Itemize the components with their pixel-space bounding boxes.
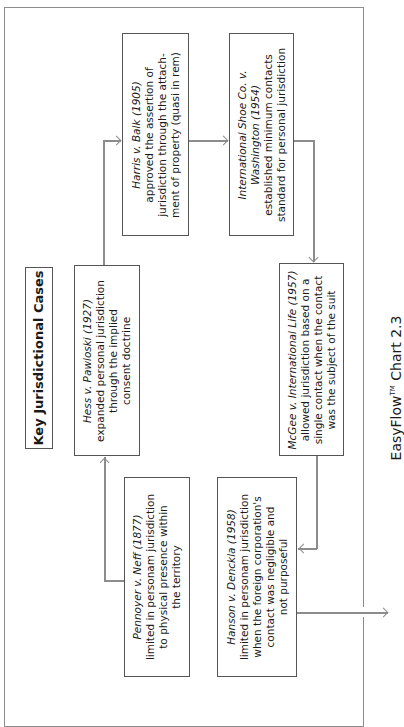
case-text-mcgee: McGee v. International Life (1957) allow… [286,270,338,449]
case-desc-line: single contact when the contact [312,270,325,449]
case-text-intl-shoe: International Shoe Co. v. Washington (19… [236,47,288,221]
case-desc-line: when the foreign corporation's [251,494,264,660]
case-box-pennoyer: Pennoyer v. Neff (1877) limited in perso… [124,477,190,677]
connector-mcgee-hanson [316,456,318,549]
title-box: Key Jurisdictional Cases [25,267,53,449]
chart-caption: EasyFlowTM Chart 2.3 [388,316,404,461]
connector-pennoyer-hess [104,580,124,582]
case-desc-line: not purposeful [277,494,290,660]
case-desc-line: to physical presence within [157,494,170,660]
case-desc-line: through the implied [107,280,120,442]
case-text-pennoyer: Pennoyer v. Neff (1877) limited in perso… [131,494,183,660]
case-box-hess: Hess v. Pawloski (1927) expanded persona… [74,265,140,456]
case-desc-line: limited in personam jurisdiction [144,494,157,660]
connector-pennoyer-hess [104,457,106,581]
case-desc-line: expanded personal jurisdiction [94,280,107,442]
case-name: Hess v. Pawloski (1927) [81,280,94,442]
connector-intlshoe-mcgee [294,140,314,142]
case-desc-line: ment of property (quasi in rem) [169,52,182,218]
case-name: Washington (1954) [249,47,262,221]
case-desc-line: the territory [170,494,183,660]
trademark-symbol: TM [389,385,397,395]
case-desc-line: jurisdiction through the attach- [156,52,169,218]
case-box-intl-shoe: International Shoe Co. v. Washington (19… [229,33,294,236]
connector-hess-harris [103,140,105,265]
case-box-hanson: Hanson v. Denckla (1958) limited in pers… [217,477,297,677]
caption-label: Chart 2.3 [388,316,404,381]
case-name: McGee v. International Life (1957) [286,270,299,449]
case-name: International Shoe Co. v. [236,47,249,221]
case-text-harris: Harris v. Balk (1905) approved the asser… [130,52,182,218]
case-desc-line: consent doctrine [120,280,133,442]
connector-hanson-offpage [297,612,388,614]
connector-intlshoe-mcgee [313,140,315,262]
case-desc-line: standard for personal jurisdiction [275,47,288,221]
case-desc-line: established minimum contacts [262,47,275,221]
arrow-right-icon [379,608,389,618]
case-desc-line: was the subject of the suit [325,270,338,449]
case-desc-line: limited in personam jurisdiction [238,494,251,660]
caption-brand: EasyFlow [388,396,404,461]
case-name: Hanson v. Denckla (1958) [225,494,238,660]
case-box-harris: Harris v. Balk (1905) approved the asser… [122,33,189,236]
diagram-title: Key Jurisdictional Cases [31,270,47,445]
case-name: Harris v. Balk (1905) [130,52,143,218]
case-text-hanson: Hanson v. Denckla (1958) limited in pers… [225,494,290,660]
case-desc-line: approved the assertion of [143,52,156,218]
case-box-mcgee: McGee v. International Life (1957) allow… [279,263,344,456]
case-desc-line: allowed jurisdiction based on a [299,270,312,449]
case-text-hess: Hess v. Pawloski (1927) expanded persona… [81,280,133,442]
case-desc-line: contact was negligible and [264,494,277,660]
case-name: Pennoyer v. Neff (1877) [131,494,144,660]
